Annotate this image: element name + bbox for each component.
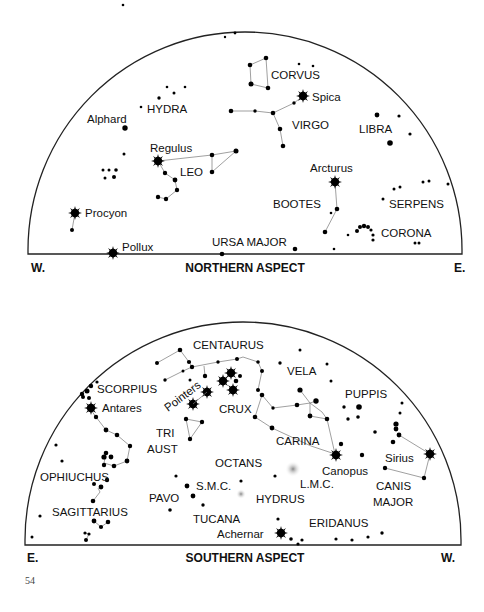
label-corvus: CORVUS [271,69,320,81]
large-magellanic-cloud [285,461,301,477]
label-smc: S.M.C. [196,480,231,492]
canopus-star [329,448,343,462]
label-major: MAJOR [373,496,413,508]
label-scorpius: SCORPIUS [97,383,157,395]
label-canis: CANIS [376,480,411,492]
label-ursa-major: URSA MAJOR [212,236,287,248]
label-pointers: Pointers [162,378,203,413]
northern-aspect-chart: CORVUS Spica HYDRA Alphard VIRGO LIBRA R… [28,4,465,275]
label-vela: VELA [287,365,317,377]
label-arcturus: Arcturus [310,162,353,174]
label-tri: TRI [156,427,175,439]
northern-right-direction: E. [454,261,465,275]
label-octans: OCTANS [215,457,262,469]
achernar-star [274,526,288,540]
label-serpens: SERPENS [389,198,444,210]
label-lmc: L.M.C. [300,478,334,490]
procyon-star [68,206,82,232]
page-number: 54 [25,575,35,586]
sagittarius-constellation [31,451,117,542]
southern-aspect-title: SOUTHERN ASPECT [186,551,306,565]
label-tucana: TUCANA [193,513,241,525]
label-carina: CARINA [276,435,320,447]
pollux-star [106,246,120,260]
label-libra: LIBRA [359,123,393,135]
label-centaurus: CENTAURUS [193,339,264,351]
label-hydra: HYDRA [147,103,188,115]
label-antares: Antares [102,402,142,414]
label-canopus: Canopus [322,465,368,477]
label-achernar: Achernar [217,528,264,540]
label-regulus: Regulus [150,142,192,154]
label-bootes: BOOTES [273,198,321,210]
label-puppis: PUPPIS [345,388,388,400]
label-pollux: Pollux [122,241,154,253]
label-sirius: Sirius [385,452,414,464]
southern-aspect-chart: CENTAURUS SCORPIUS VELA Pointers Antares… [25,322,461,565]
label-leo: LEO [180,166,203,178]
northern-horizon-arc [28,32,462,254]
label-eridanus: ERIDANUS [309,517,369,529]
star-charts: CORVUS Spica HYDRA Alphard VIRGO LIBRA R… [0,0,484,612]
label-spica: Spica [312,91,341,103]
ursa-major-star [220,252,225,257]
label-virgo: VIRGO [292,119,329,131]
label-aust: AUST [147,443,178,455]
label-corona: CORONA [381,227,432,239]
northern-left-direction: W. [31,261,45,275]
crux-constellation [216,366,242,397]
label-crux: CRUX [219,403,252,415]
small-magellanic-cloud [236,489,246,499]
bootes-constellation [323,175,342,250]
triangulum-australe-constellation [184,417,204,441]
label-procyon: Procyon [85,207,127,219]
northern-aspect-title: NORTHERN ASPECT [185,261,305,275]
label-ophiuchus: OPHIUCHUS [40,471,109,483]
label-hydrus: HYDRUS [256,493,305,505]
leo-constellation [102,149,239,202]
southern-right-direction: W. [441,551,455,565]
label-sagittarius: SAGITTARIUS [52,506,128,518]
southern-left-direction: E. [27,551,38,565]
label-pavo: PAVO [149,492,179,504]
label-alphard: Alphard [87,113,127,125]
centaurus-constellation [155,348,264,392]
